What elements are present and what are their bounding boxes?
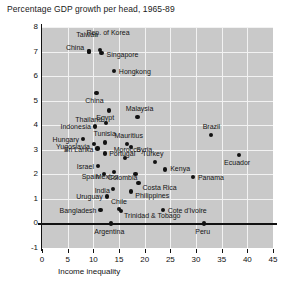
- point-label: Hongkong: [119, 68, 151, 75]
- x-tick-mark: [42, 249, 43, 253]
- y-tick-label: 7: [0, 48, 38, 56]
- y-axis-line: [41, 24, 42, 251]
- point-label: Philippines: [135, 191, 169, 198]
- x-tick-label: 30: [184, 255, 208, 264]
- y-tick-label: 3: [0, 146, 38, 154]
- point-label: Israel: [77, 162, 94, 169]
- data-point: [153, 160, 157, 164]
- x-tick-mark: [145, 249, 146, 253]
- point-label: Argentina: [94, 228, 124, 235]
- data-point: [94, 91, 98, 95]
- point-label: China: [66, 43, 84, 50]
- chart-title: Percentage GDP growth per head, 1965-89: [7, 4, 175, 14]
- data-point: [209, 133, 213, 137]
- data-point: [103, 151, 107, 155]
- x-tick-label: 20: [133, 255, 157, 264]
- data-point: [95, 146, 99, 150]
- x-tick-label: 15: [107, 255, 131, 264]
- data-point: [87, 49, 91, 53]
- x-tick-mark: [222, 249, 223, 253]
- x-tick-mark: [247, 249, 248, 253]
- point-label: Thailand: [75, 115, 102, 122]
- point-label: Tunisia: [93, 130, 115, 137]
- x-axis-label: Income inequality: [58, 267, 120, 276]
- data-point: [112, 69, 116, 73]
- x-tick-mark: [68, 249, 69, 253]
- data-point: [191, 175, 195, 179]
- data-point: [125, 142, 129, 146]
- point-label: Kenya: [170, 165, 190, 172]
- data-point: [98, 208, 102, 212]
- point-label: Ecuador: [224, 159, 250, 166]
- point-label: Panama: [198, 173, 224, 180]
- y-tick-label: 4: [0, 121, 38, 129]
- x-tick-mark: [93, 249, 94, 253]
- point-label: Brazil: [203, 123, 221, 130]
- data-point: [99, 51, 103, 55]
- data-point: [136, 181, 140, 185]
- x-tick-mark: [273, 249, 274, 253]
- point-label: Spain: [82, 173, 100, 180]
- point-label: Cote d'Ivoire: [168, 206, 207, 213]
- data-point: [129, 189, 133, 193]
- point-label: Bangladesh: [60, 206, 97, 213]
- point-label: Malaysia: [126, 105, 154, 112]
- data-point: [111, 187, 115, 191]
- data-point: [163, 167, 167, 171]
- y-tick-label: 2: [0, 170, 38, 178]
- point-label: Costa Rica: [143, 183, 177, 190]
- x-tick-mark: [119, 249, 120, 253]
- data-point: [96, 164, 100, 168]
- data-point: [237, 153, 241, 157]
- data-point: [107, 108, 111, 112]
- data-point: [81, 137, 85, 141]
- point-label: Peru: [195, 228, 210, 235]
- data-point: [93, 124, 97, 128]
- zero-line: [38, 223, 277, 225]
- point-label: China: [85, 97, 103, 104]
- data-point: [105, 194, 109, 198]
- point-label: Sri Lanka: [64, 145, 94, 152]
- x-tick-label: 5: [56, 255, 80, 264]
- y-tick-label: 6: [0, 72, 38, 80]
- y-tick-label: 5: [0, 97, 38, 105]
- point-label: Mauritius: [114, 132, 142, 139]
- x-tick-mark: [196, 249, 197, 253]
- x-tick-label: 25: [158, 255, 182, 264]
- point-label: Uruguay: [76, 193, 102, 200]
- point-label: Rep. of Korea: [86, 29, 129, 36]
- data-point: [135, 115, 139, 119]
- point-label: Turkey: [142, 150, 163, 157]
- point-label: Singapore: [107, 50, 139, 57]
- data-point: [119, 209, 123, 213]
- x-tick-label: 45: [261, 255, 285, 264]
- point-label: Chile: [111, 198, 127, 205]
- x-tick-label: 40: [235, 255, 259, 264]
- point-label: Indonesia: [61, 123, 91, 130]
- point-label: Colombia: [108, 174, 138, 181]
- x-tick-label: 0: [30, 255, 54, 264]
- y-tick-label: 1: [0, 195, 38, 203]
- y-tick-label: 0: [0, 219, 38, 227]
- point-label: Morocco: [114, 146, 141, 153]
- x-tick-label: 10: [81, 255, 105, 264]
- scatter-chart: Percentage GDP growth per head, 1965-89 …: [0, 0, 285, 285]
- y-tick-label: 8: [0, 23, 38, 31]
- x-tick-mark: [170, 249, 171, 253]
- x-tick-label: 35: [210, 255, 234, 264]
- data-point: [103, 140, 107, 144]
- y-tick-label: -1: [0, 244, 38, 252]
